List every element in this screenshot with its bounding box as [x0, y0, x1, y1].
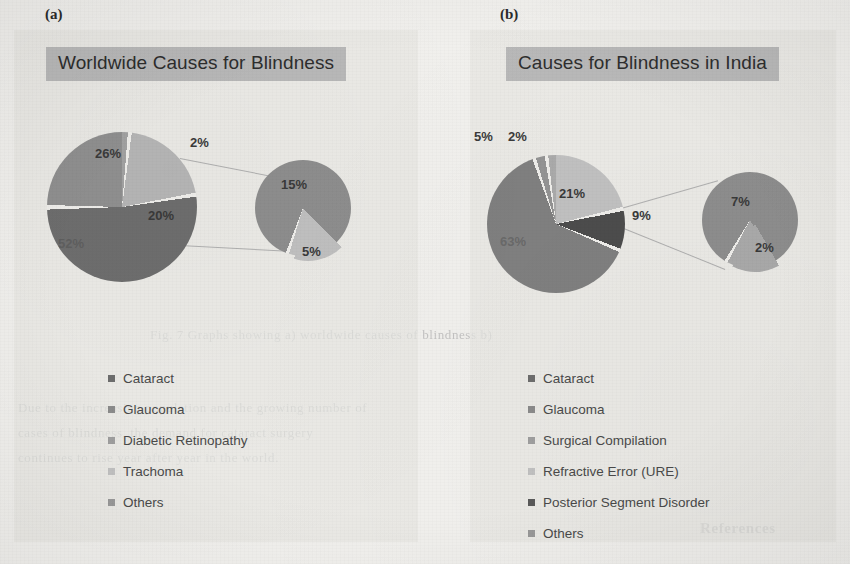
- slice-label-b-detail-2: 2%: [755, 240, 774, 255]
- legend-swatch-icon: [528, 530, 535, 537]
- legend-item-label: Cataract: [543, 371, 594, 386]
- legend-swatch-icon: [108, 468, 115, 475]
- slice-label-a-diabetic-retinopathy: 2%: [190, 135, 209, 150]
- slice-label-b-cataract: 63%: [500, 234, 526, 249]
- chart-title-india: Causes for Blindness in India: [506, 47, 779, 81]
- slice-label-b-surgical-compilation: 2%: [508, 129, 527, 144]
- slice-label-a-detail-15: 15%: [281, 177, 307, 192]
- slice-label-a-glaucoma: 26%: [95, 146, 121, 161]
- pie-chart-india-detail: [702, 172, 798, 268]
- legend-item-surgical-compilation[interactable]: Surgical Compilation: [528, 425, 710, 456]
- pie-chart-worldwide-detail: [255, 160, 351, 256]
- legend-item-label: Diabetic Retinopathy: [123, 433, 248, 448]
- figure-label-b: (b): [500, 6, 518, 23]
- pie-main-a-body: [47, 132, 197, 282]
- slice-label-a-trachoma: 20%: [148, 208, 174, 223]
- slice-label-b-refractive-error: 21%: [559, 186, 585, 201]
- slice-label-a-cataract: 52%: [58, 236, 84, 251]
- pie-main-b-body: [487, 155, 625, 293]
- slice-label-b-detail-7: 7%: [731, 194, 750, 209]
- legend-india: Cataract Glaucoma Surgical Compilation R…: [528, 363, 710, 549]
- legend-swatch-icon: [528, 437, 535, 444]
- legend-swatch-icon: [528, 375, 535, 382]
- legend-worldwide: Cataract Glaucoma Diabetic Retinopathy T…: [108, 363, 248, 518]
- legend-item-refractive-error[interactable]: Refractive Error (URE): [528, 456, 710, 487]
- legend-item-others[interactable]: Others: [528, 518, 710, 549]
- legend-item-label: Glaucoma: [543, 402, 605, 417]
- legend-item-label: Cataract: [123, 371, 174, 386]
- legend-item-glaucoma[interactable]: Glaucoma: [528, 394, 710, 425]
- legend-item-others[interactable]: Others: [108, 487, 248, 518]
- legend-item-trachoma[interactable]: Trachoma: [108, 456, 248, 487]
- legend-item-label: Others: [123, 495, 164, 510]
- legend-item-label: Others: [543, 526, 584, 541]
- legend-swatch-icon: [108, 437, 115, 444]
- legend-item-label: Posterior Segment Disorder: [543, 495, 710, 510]
- legend-swatch-icon: [108, 499, 115, 506]
- legend-swatch-icon: [108, 375, 115, 382]
- chart-title-worldwide: Worldwide Causes for Blindness: [46, 47, 346, 81]
- legend-swatch-icon: [108, 406, 115, 413]
- legend-item-cataract[interactable]: Cataract: [108, 363, 248, 394]
- legend-item-label: Glaucoma: [123, 402, 185, 417]
- figure-label-a: (a): [45, 6, 63, 23]
- legend-item-label: Trachoma: [123, 464, 183, 479]
- slice-label-a-detail-5: 5%: [302, 244, 321, 259]
- pie-chart-worldwide-main: [47, 132, 197, 282]
- legend-item-label: Surgical Compilation: [543, 433, 667, 448]
- legend-item-cataract[interactable]: Cataract: [528, 363, 710, 394]
- legend-item-label: Refractive Error (URE): [543, 464, 679, 479]
- legend-swatch-icon: [528, 468, 535, 475]
- legend-swatch-icon: [528, 499, 535, 506]
- legend-swatch-icon: [528, 406, 535, 413]
- slice-label-b-others: 9%: [632, 208, 651, 223]
- pie-chart-india-main: [487, 155, 625, 293]
- legend-item-posterior-segment-disorder[interactable]: Posterior Segment Disorder: [528, 487, 710, 518]
- slice-label-b-glaucoma: 5%: [474, 129, 493, 144]
- legend-item-glaucoma[interactable]: Glaucoma: [108, 394, 248, 425]
- pie-detail-b-exploded-slice: [707, 176, 803, 272]
- legend-item-diabetic-retinopathy[interactable]: Diabetic Retinopathy: [108, 425, 248, 456]
